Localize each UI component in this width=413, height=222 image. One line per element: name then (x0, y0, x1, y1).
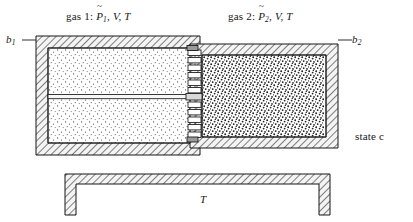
gas-1-rest: , V, T (107, 10, 131, 22)
gas-2-pressure-symbol: P (258, 10, 265, 22)
spring-piston-junction (186, 94, 202, 101)
spring-coil (188, 88, 201, 93)
right-chamber-gas-2 (190, 44, 338, 148)
boundary-b1-subscript: 1 (12, 38, 16, 47)
spring-coil (188, 110, 201, 115)
boundary-b1-label: b1 (6, 33, 16, 47)
coupling-spring (186, 46, 202, 143)
gas-2-rest: , V, T (269, 10, 293, 22)
boundary-b2-label: b2 (352, 33, 362, 47)
boundary-b2-subscript: 2 (358, 38, 362, 47)
spring-coil (188, 58, 201, 63)
state-label: state c (355, 130, 384, 142)
spring-coil (188, 102, 201, 107)
gas-1-label: gas 1: P1, V, T (66, 10, 131, 24)
piston-rod-shaft (48, 95, 194, 99)
spring-coil (188, 73, 201, 78)
gas-1-pressure-symbol: P (96, 10, 103, 22)
gas-1-prefix: gas 1: (66, 10, 93, 22)
spring-coil (188, 125, 201, 130)
piston-rod (48, 95, 194, 99)
reservoir-temperature-label: T (200, 193, 206, 205)
heat-reservoir (65, 174, 330, 215)
spring-anchor-top (187, 46, 198, 51)
spring-anchor-bottom (187, 137, 198, 142)
gas-2-label: gas 2: P2, V, T (228, 10, 293, 24)
heat-reservoir-wall (65, 174, 330, 215)
spring-coil (188, 65, 201, 70)
reservoir-temperature-symbol: T (200, 193, 206, 205)
gas-2-interior (202, 55, 324, 137)
gas-2-prefix: gas 2: (228, 10, 255, 22)
spring-coil (188, 80, 201, 85)
spring-coil (188, 117, 201, 122)
